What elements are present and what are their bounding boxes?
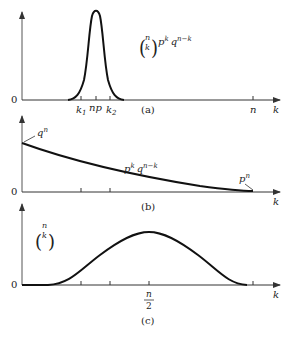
origin-label-b: 0 <box>11 186 17 197</box>
svg-text:n: n <box>145 33 150 42</box>
binomial-figure: 0 k1 np k2 n k ( n k ) pkqn−k (a) 0 qn p… <box>0 0 293 338</box>
x-label-k-a: k <box>273 104 279 115</box>
caption-c: (c) <box>141 315 155 326</box>
origin-label-a: 0 <box>11 94 17 105</box>
svg-text:k: k <box>42 231 47 240</box>
caption-a: (a) <box>141 104 155 115</box>
svg-text:): ) <box>48 230 55 252</box>
annotation-qn: qn <box>37 126 48 138</box>
caption-b: (b) <box>141 201 155 212</box>
origin-label-c: 0 <box>11 279 17 290</box>
svg-text:(: ( <box>35 230 42 252</box>
x-label-k-b: k <box>273 196 279 207</box>
curve-c <box>22 232 247 285</box>
panel-b: 0 qn pkqn−k pn k (b) <box>11 116 280 212</box>
tick-label-k1: k1 <box>76 104 87 117</box>
tick-label-k2: k2 <box>106 104 117 117</box>
panel-a: 0 k1 np k2 n k ( n k ) pkqn−k (a) <box>11 11 280 117</box>
curve-a <box>68 11 124 100</box>
x-label-k-c: k <box>273 289 279 300</box>
arrow-pn <box>245 184 253 190</box>
svg-text:): ) <box>151 36 158 61</box>
curve-label-b: pkqn−k <box>124 162 158 174</box>
tick-label-np: np <box>89 102 102 113</box>
formula-a: ( n k ) pkqn−k <box>139 33 192 61</box>
annotation-pn: pn <box>239 172 250 184</box>
arrow-qn <box>24 136 35 142</box>
panel-c: 0 ( n k ) n 2 k (c) <box>11 204 280 326</box>
svg-text:pkqn−k: pkqn−k <box>158 35 192 47</box>
svg-text:k: k <box>145 43 150 52</box>
svg-text:2: 2 <box>146 301 152 311</box>
svg-text:n: n <box>42 221 47 230</box>
tick-label-n-half: n 2 <box>144 289 154 311</box>
svg-text:n: n <box>146 289 152 299</box>
tick-label-n: n <box>250 104 256 115</box>
formula-c: ( n k ) <box>35 221 55 252</box>
